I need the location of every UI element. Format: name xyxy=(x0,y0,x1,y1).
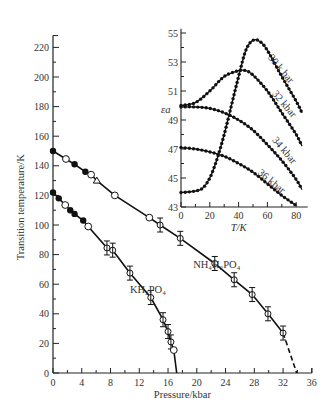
inset-marker xyxy=(298,105,301,108)
inset-marker xyxy=(233,89,236,92)
inset-marker xyxy=(267,51,270,54)
inset-y-tick-label: 55 xyxy=(168,28,178,39)
inset-marker xyxy=(253,130,256,133)
inset-marker xyxy=(204,106,207,109)
inset-marker xyxy=(208,150,211,153)
inset-marker xyxy=(211,170,214,173)
filled-circle-marker xyxy=(56,195,62,201)
inset-marker xyxy=(221,110,224,113)
y-tick-label: 180 xyxy=(34,101,49,112)
inset-marker xyxy=(192,102,195,105)
inset-marker xyxy=(235,81,238,84)
x-axis-label: Pressure/kbar xyxy=(154,389,212,400)
inset-marker xyxy=(289,91,292,94)
inset-marker xyxy=(236,118,239,121)
inset-marker xyxy=(199,97,202,100)
y-tick-label: 80 xyxy=(39,249,49,260)
y-tick-label: 20 xyxy=(39,338,49,349)
inset-marker xyxy=(262,139,265,142)
inset-marker xyxy=(246,167,249,170)
inset-marker xyxy=(204,149,207,152)
filled-circle-marker xyxy=(71,211,77,217)
filled-circle-marker xyxy=(50,189,56,195)
inset-marker xyxy=(234,85,237,88)
open-circle-marker xyxy=(85,223,92,230)
inset-marker xyxy=(252,38,255,41)
inset-marker xyxy=(292,174,295,177)
x-tick-label: 0 xyxy=(51,377,56,388)
x-tick-label: 32 xyxy=(278,377,288,388)
x-tick-label: 24 xyxy=(221,377,231,388)
inset-marker xyxy=(209,107,212,110)
filled-circle-marker xyxy=(80,217,86,223)
inset-marker xyxy=(247,70,250,73)
inset-marker xyxy=(286,198,289,201)
x-tick-label: 16 xyxy=(163,377,173,388)
inset-marker xyxy=(214,162,217,165)
inset-marker xyxy=(293,130,296,133)
inset-marker xyxy=(265,47,268,50)
inset-marker xyxy=(231,97,234,100)
inset-marker xyxy=(296,102,299,105)
inset-marker xyxy=(262,85,265,88)
inset-marker xyxy=(243,69,246,72)
inset-marker xyxy=(276,154,279,157)
inset-marker xyxy=(299,109,302,112)
inset-marker xyxy=(188,147,191,150)
x-tick-label: 20 xyxy=(192,377,202,388)
inset-marker xyxy=(242,56,245,59)
inset-marker xyxy=(223,130,226,133)
inset-marker xyxy=(290,201,293,204)
inset-marker xyxy=(273,151,276,154)
inset-marker xyxy=(290,126,293,129)
inset-marker xyxy=(246,45,249,48)
x-tick-label: 12 xyxy=(134,377,144,388)
inset-marker xyxy=(227,72,230,75)
inset-plot: 02040608043454749515355T/Kεa30 k bar32 k… xyxy=(161,28,308,234)
inset-marker xyxy=(259,41,262,44)
nh4h2po4-dashed xyxy=(283,333,297,373)
inset-marker xyxy=(299,184,302,187)
inset-marker xyxy=(232,159,235,162)
inset-marker xyxy=(281,112,284,115)
inset-marker xyxy=(256,78,259,81)
inset-marker xyxy=(196,189,199,192)
inset-marker xyxy=(188,190,191,193)
inset-marker xyxy=(228,157,231,160)
inset-marker xyxy=(295,133,298,136)
inset-marker xyxy=(212,151,215,154)
inset-marker xyxy=(205,92,208,95)
inset-marker xyxy=(192,190,195,193)
inset-marker xyxy=(208,89,211,92)
x-tick-label: 4 xyxy=(79,377,84,388)
inset-marker xyxy=(246,125,249,128)
inset-marker xyxy=(279,157,282,160)
inset-marker xyxy=(196,105,199,108)
inset-marker xyxy=(297,137,300,140)
inset-marker xyxy=(292,94,295,97)
inset-marker xyxy=(294,177,297,180)
inset-marker xyxy=(215,158,218,161)
x-tick-label: 28 xyxy=(249,377,259,388)
inset-marker xyxy=(279,109,282,112)
inset-marker xyxy=(236,161,239,164)
inset-marker xyxy=(225,122,228,125)
inset-x-tick-label: 40 xyxy=(234,210,244,221)
inset-marker xyxy=(230,101,233,104)
inset-marker xyxy=(200,148,203,151)
inset-marker xyxy=(259,81,262,84)
filled-circle-marker xyxy=(71,161,77,167)
inset-marker xyxy=(243,52,246,55)
inset-marker xyxy=(250,72,253,75)
inset-x-tick-label: 0 xyxy=(179,210,184,221)
inset-marker xyxy=(232,93,235,96)
y-tick-label: 60 xyxy=(39,279,49,290)
inset-marker xyxy=(195,100,198,103)
inset-marker xyxy=(265,142,268,145)
inset-marker xyxy=(283,116,286,119)
inset-y-axis-label: εa xyxy=(161,104,170,115)
nh4h2po4-label: NH₄H₂PO₄ xyxy=(193,259,240,270)
inset-marker xyxy=(217,109,220,112)
inset-marker xyxy=(293,203,296,206)
inset-marker xyxy=(237,73,240,76)
